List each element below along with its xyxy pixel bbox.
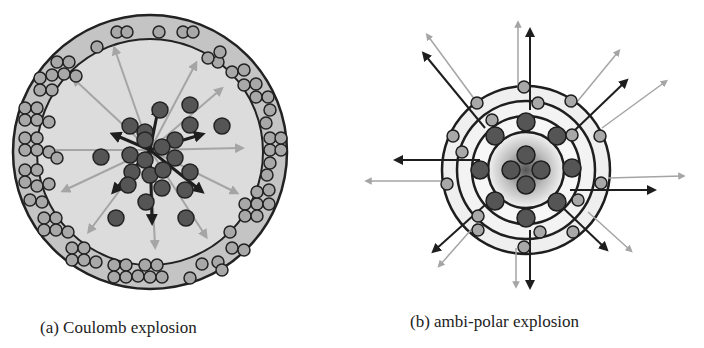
coulomb-explosion-diagram	[0, 0, 320, 300]
caption-b: (b) ambi-polar explosion	[410, 312, 579, 332]
panel-ambipolar-explosion: (b) ambi-polar explosion	[360, 0, 704, 300]
caption-a: (a) Coulomb explosion	[40, 318, 197, 338]
panel-coulomb-explosion: (a) Coulomb explosion	[0, 0, 320, 300]
ambipolar-explosion-diagram	[360, 0, 704, 300]
